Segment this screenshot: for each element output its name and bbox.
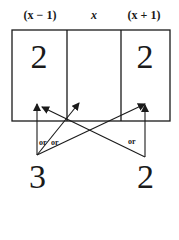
cell-value-x-plus-1: 2 [118,40,172,74]
or-label-2: or [51,138,59,147]
cell-value-x-minus-1: 2 [12,40,66,74]
bottom-value-left: 3 [29,160,46,194]
or-label-1: or [39,138,47,147]
arrow-2-to-left-cell [42,107,145,157]
arrow-3-to-right-cell [37,104,145,155]
bottom-value-right: 2 [137,160,154,194]
or-label-3: or [128,137,136,146]
arrow-3-to-middle-cell [37,103,79,155]
